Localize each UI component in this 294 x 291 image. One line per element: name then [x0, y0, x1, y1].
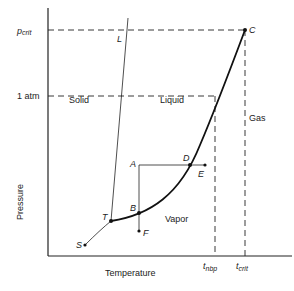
point-E [203, 163, 206, 166]
tick-p-crit: pcrit [16, 26, 32, 36]
point-B [137, 211, 141, 215]
point-C [243, 28, 247, 32]
region-liquid: Liquid [160, 95, 184, 105]
vaporization-curve [111, 30, 245, 221]
label-B: B [130, 203, 136, 213]
y-axis-title: Pressure [15, 184, 25, 220]
point-T [109, 219, 113, 223]
sublimation-curve [85, 221, 111, 245]
fusion-curve [111, 18, 128, 221]
tick-t-nbp: tnbp [203, 261, 217, 273]
point-D [188, 163, 192, 167]
phase-diagram: S T B F A D E C L Solid Liquid Vapor Gas… [0, 0, 294, 291]
point-S [83, 243, 86, 246]
tick-t-crit: tcrit [236, 261, 249, 272]
region-solid: Solid [69, 95, 89, 105]
label-F: F [143, 228, 149, 238]
region-vapor: Vapor [165, 214, 188, 224]
tick-one-atm: 1 atm [17, 91, 40, 101]
point-F [137, 229, 140, 232]
label-C: C [249, 25, 256, 35]
label-D: D [183, 153, 190, 163]
label-E: E [198, 169, 205, 179]
label-S: S [76, 240, 82, 250]
label-L: L [117, 34, 122, 44]
x-axis-title: Temperature [105, 268, 156, 278]
label-T: T [102, 212, 109, 222]
region-gas: Gas [249, 113, 266, 123]
label-A: A [129, 159, 136, 169]
